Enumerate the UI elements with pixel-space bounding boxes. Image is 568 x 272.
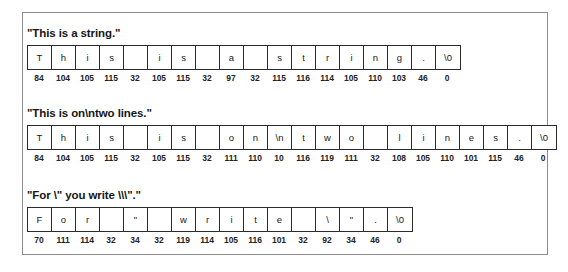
character-cell: i: [76, 46, 100, 69]
ascii-code-value: 32: [291, 235, 315, 246]
ascii-code-value: 84: [27, 153, 51, 164]
ascii-code-value: 34: [339, 235, 363, 246]
character-cell: e: [460, 126, 484, 149]
character-cell: \0: [388, 208, 412, 231]
ascii-code-value: 115: [483, 153, 507, 164]
ascii-codes-row: 70111114323432119114105116101329234460: [27, 235, 411, 246]
character-cell: T: [28, 46, 52, 69]
ascii-code-value: 0: [435, 73, 459, 84]
ascii-code-value: 115: [267, 73, 291, 84]
ascii-code-value: 115: [99, 153, 123, 164]
character-cell: a: [220, 46, 244, 69]
character-cell: .: [508, 126, 532, 149]
ascii-code-value: 111: [219, 153, 243, 164]
ascii-code-value: 105: [147, 73, 171, 84]
character-cell: o: [220, 126, 244, 149]
ascii-code-value: 108: [387, 153, 411, 164]
ascii-code-value: 115: [171, 73, 195, 84]
character-cell: ": [340, 208, 364, 231]
character-cell: \0: [532, 126, 556, 149]
character-cell: n: [436, 126, 460, 149]
character-cell: .: [364, 208, 388, 231]
character-cell: i: [148, 126, 172, 149]
ascii-code-value: 110: [435, 153, 459, 164]
ascii-code-value: 46: [411, 73, 435, 84]
ascii-code-value: 101: [267, 235, 291, 246]
character-cell: \: [316, 208, 340, 231]
character-cell: i: [412, 126, 436, 149]
ascii-code-value: 92: [315, 235, 339, 246]
character-cell: s: [100, 46, 124, 69]
character-cell: w: [316, 126, 340, 149]
string-example-block: "This is a string."This is a string.\084…: [27, 27, 461, 84]
string-literal-label: "This is a string.": [27, 27, 461, 40]
ascii-code-value: 34: [123, 235, 147, 246]
ascii-code-value: 32: [123, 73, 147, 84]
ascii-code-value: 119: [171, 235, 195, 246]
ascii-code-value: 116: [243, 235, 267, 246]
character-cell: [148, 208, 172, 231]
character-cell: i: [220, 208, 244, 231]
character-cell: [196, 46, 220, 69]
character-cell: i: [76, 126, 100, 149]
ascii-code-value: 32: [195, 153, 219, 164]
ascii-code-value: 104: [51, 73, 75, 84]
character-cell: l: [388, 126, 412, 149]
character-cell: h: [52, 46, 76, 69]
ascii-code-value: 114: [75, 235, 99, 246]
ascii-code-value: 111: [339, 153, 363, 164]
ascii-code-value: 111: [51, 235, 75, 246]
string-example-block: "For \" you write \\\"."For " write \".\…: [27, 189, 413, 246]
ascii-code-value: 116: [291, 73, 315, 84]
character-cell: [124, 126, 148, 149]
character-cell: ": [124, 208, 148, 231]
ascii-code-value: 46: [363, 235, 387, 246]
character-cell: .: [412, 46, 436, 69]
ascii-code-value: 10: [267, 153, 291, 164]
character-cell: w: [172, 208, 196, 231]
character-cell: T: [28, 126, 52, 149]
ascii-code-value: 101: [459, 153, 483, 164]
character-cell: [100, 208, 124, 231]
ascii-code-value: 84: [27, 73, 51, 84]
character-cell: t: [244, 208, 268, 231]
string-literal-label: "For \" you write \\\".": [27, 189, 413, 202]
ascii-code-value: 114: [315, 73, 339, 84]
character-cell: s: [484, 126, 508, 149]
character-cell: [124, 46, 148, 69]
ascii-code-value: 32: [195, 73, 219, 84]
character-cell: e: [268, 208, 292, 231]
character-cell: n: [244, 126, 268, 149]
character-cell: h: [52, 126, 76, 149]
ascii-code-value: 0: [531, 153, 555, 164]
ascii-code-value: 32: [123, 153, 147, 164]
character-cell: o: [340, 126, 364, 149]
ascii-code-value: 104: [51, 153, 75, 164]
string-literal-label: "This is on\ntwo lines.": [27, 107, 557, 120]
character-cell: i: [148, 46, 172, 69]
character-cell: t: [292, 46, 316, 69]
ascii-code-value: 115: [171, 153, 195, 164]
ascii-code-value: 119: [315, 153, 339, 164]
ascii-code-value: 32: [243, 73, 267, 84]
ascii-code-value: 114: [195, 235, 219, 246]
character-cell: s: [172, 46, 196, 69]
character-cell: n: [364, 46, 388, 69]
ascii-codes-row: 8410410511532105115321111101011611911132…: [27, 153, 555, 164]
character-cell: r: [196, 208, 220, 231]
character-cell: s: [172, 126, 196, 149]
character-cell: \n: [268, 126, 292, 149]
character-cell: r: [316, 46, 340, 69]
character-cell: o: [52, 208, 76, 231]
character-cell: [244, 46, 268, 69]
ascii-code-value: 32: [363, 153, 387, 164]
ascii-code-value: 110: [363, 73, 387, 84]
character-cell: \0: [436, 46, 460, 69]
ascii-code-value: 105: [411, 153, 435, 164]
character-cell: [364, 126, 388, 149]
ascii-code-value: 105: [75, 73, 99, 84]
character-cell: [292, 208, 316, 231]
ascii-code-value: 32: [99, 235, 123, 246]
character-cell: r: [76, 208, 100, 231]
ascii-code-value: 46: [507, 153, 531, 164]
